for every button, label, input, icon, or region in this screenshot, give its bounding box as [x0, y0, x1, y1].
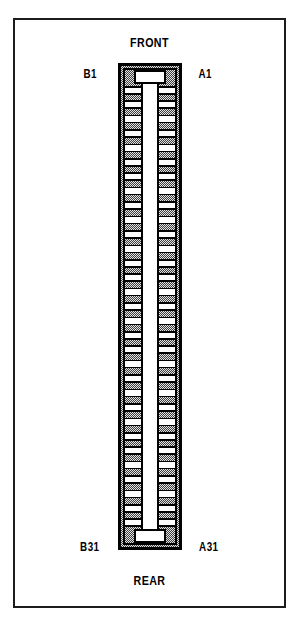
- connector-body-svg: [118, 63, 182, 550]
- connector-body: [118, 63, 182, 550]
- pin-label-a31: A31: [199, 541, 218, 553]
- pin-label-b31: B31: [80, 541, 99, 553]
- pin-label-b1: B1: [83, 68, 96, 80]
- connector-diagram-figure: FRONT B1 A1 B31 A31 REAR: [0, 0, 299, 623]
- rear-orientation-label: REAR: [27, 574, 272, 587]
- front-orientation-label: FRONT: [27, 36, 272, 49]
- pin-label-a1: A1: [198, 68, 211, 80]
